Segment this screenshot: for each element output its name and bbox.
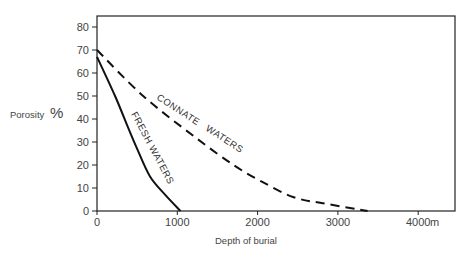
y-axis-unit: %	[50, 104, 63, 121]
x-tick-label: 3000	[326, 216, 350, 228]
x-tick-label: 4000	[406, 216, 430, 228]
x-tick-label: 1000	[165, 216, 189, 228]
y-axis-label: Porosity	[10, 109, 45, 120]
y-axis-ticks: 01020304050607080	[77, 21, 97, 217]
y-tick-label: 30	[77, 136, 89, 148]
y-tick-label: 20	[77, 159, 89, 171]
y-tick-label: 60	[77, 67, 89, 79]
porosity-depth-chart: 01020304050607080 01000200030004000 Poro…	[0, 0, 467, 253]
y-tick-label: 10	[77, 182, 89, 194]
y-tick-label: 0	[83, 205, 89, 217]
y-tick-label: 70	[77, 44, 89, 56]
x-axis-ticks: 01000200030004000	[94, 211, 431, 228]
y-tick-label: 50	[77, 90, 89, 102]
x-axis-label: Depth of burial	[215, 235, 277, 246]
connate-waters-label-2: WATERS	[204, 122, 246, 154]
plot-frame	[97, 16, 455, 211]
connate-waters-label-1: CONNATE	[155, 91, 202, 127]
x-tick-label: 2000	[245, 216, 269, 228]
x-tick-label: 0	[94, 216, 100, 228]
fresh-waters-curve	[97, 57, 181, 211]
y-tick-label: 40	[77, 113, 89, 125]
y-tick-label: 80	[77, 21, 89, 33]
x-axis-unit: m	[430, 216, 439, 228]
